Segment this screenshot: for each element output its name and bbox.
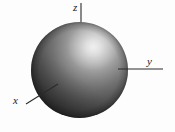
axis-label-y: y [147,56,152,67]
sphere-coordinate-figure: z y x [0,0,175,132]
sphere-rim-shading [31,22,128,118]
axis-label-x: x [13,95,18,106]
sphere-body [31,22,128,118]
axis-label-z: z [73,2,77,13]
